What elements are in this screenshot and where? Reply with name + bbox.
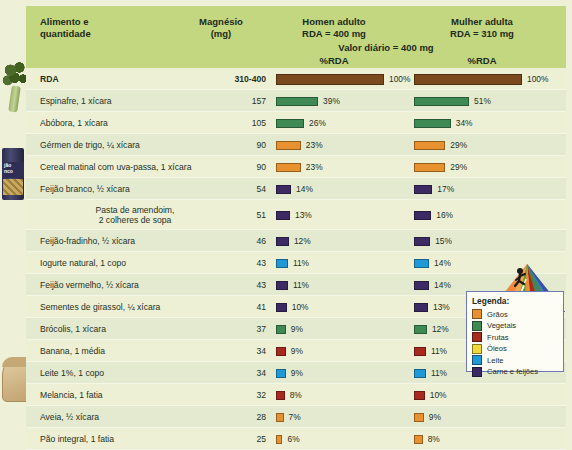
percent-label: 7% <box>289 412 301 422</box>
percent-label: 13% <box>295 210 312 220</box>
percent-bar <box>276 369 286 378</box>
percent-bar <box>276 119 304 128</box>
cell-bar-men: 12% <box>276 230 411 252</box>
cell-magnesium-mg: 34 <box>176 362 266 384</box>
header-pct-rda-women: %RDA <box>412 55 552 67</box>
cell-bar-men: 11% <box>276 274 411 296</box>
can-label: jão nco <box>2 162 24 178</box>
cell-magnesium-mg: 25 <box>176 428 266 450</box>
percent-bar <box>414 369 426 378</box>
percent-bar <box>414 185 432 194</box>
cell-bar-men: 7% <box>276 406 411 428</box>
percent-label: 100% <box>527 74 548 84</box>
legend-label: Frutas <box>487 333 509 342</box>
percent-bar <box>414 325 427 334</box>
decorative-gutter: jão nco <box>0 0 26 427</box>
percent-bar <box>276 259 288 268</box>
cell-bar-men: 9% <box>276 362 411 384</box>
percent-bar <box>276 211 290 220</box>
cell-bar-women: 8% <box>414 428 564 450</box>
legend-items: GrãosVegetaisFrutasÓleosLeiteCarne e fei… <box>472 309 558 377</box>
legend-item: Grãos <box>472 309 558 319</box>
table-body: RDA310-400100%100%Espinafre, 1 xícara157… <box>26 68 566 450</box>
cell-magnesium-mg: 310-400 <box>176 68 266 90</box>
percent-bar <box>276 413 284 422</box>
percent-bar <box>414 141 445 150</box>
cell-bar-women: 16% <box>414 200 564 230</box>
table-row: Abóbora, 1 xícara10526%34% <box>26 112 566 134</box>
percent-bar <box>414 347 426 356</box>
percent-label: 100% <box>389 74 410 84</box>
cell-bar-men: 6% <box>276 428 411 450</box>
percent-label: 26% <box>309 118 326 128</box>
legend-swatch <box>472 344 482 354</box>
header-man-line2: RDA = 400 mg <box>274 28 394 40</box>
legend-item: Vegetais <box>472 321 558 331</box>
cell-magnesium-mg: 43 <box>176 274 266 296</box>
percent-label: 11% <box>293 280 309 290</box>
table-row: Gérmen de trigo, ¼ xícara9023%29% <box>26 134 566 156</box>
percent-bar <box>414 74 522 85</box>
header-mg-line1: Magnésio <box>176 16 266 28</box>
legend-swatch <box>472 321 482 331</box>
legend-item: Leite <box>472 355 558 365</box>
cell-bar-men: 9% <box>276 340 411 362</box>
magnesium-table: Alimento e quantidade Magnésio (mg) Home… <box>26 6 566 450</box>
percent-label: 51% <box>474 96 491 106</box>
table-row: Pão integral, 1 fatia256%8% <box>26 428 566 450</box>
table-row: Aveia, ½ xícara287%9% <box>26 406 566 428</box>
cell-magnesium-mg: 34 <box>176 340 266 362</box>
legend-item: Carne e feijões <box>472 367 558 377</box>
percent-label: 14% <box>434 280 451 290</box>
header-man-column: Homen adulto RDA = 400 mg <box>274 16 394 39</box>
legend-label: Carne e feijões <box>487 367 538 376</box>
percent-label: 13% <box>433 302 450 312</box>
percent-bar <box>414 303 428 312</box>
cell-bar-women: 34% <box>414 112 564 134</box>
percent-label: 16% <box>436 210 453 220</box>
percent-bar <box>414 413 424 422</box>
header-food-line1: Alimento e <box>40 16 170 28</box>
cell-bar-women: 17% <box>414 178 564 200</box>
table-row: Feijão branco, ½ xícara5414%17% <box>26 178 566 200</box>
percent-bar <box>276 347 286 356</box>
cell-bar-men: 23% <box>276 156 411 178</box>
percent-label: 23% <box>306 140 323 150</box>
percent-label: 23% <box>306 162 323 172</box>
legend-swatch <box>472 367 482 377</box>
percent-label: 10% <box>430 390 447 400</box>
table-row: Espinafre, 1 xícara15739%51% <box>26 90 566 112</box>
cell-bar-women: 9% <box>414 406 564 428</box>
cell-magnesium-mg: 51 <box>176 200 266 230</box>
legend-swatch <box>472 332 482 342</box>
percent-bar <box>276 141 301 150</box>
cell-bar-women: 15% <box>414 230 564 252</box>
percent-bar <box>414 435 423 444</box>
percent-label: 9% <box>429 412 441 422</box>
legend-label: Óleos <box>487 344 507 353</box>
cell-bar-men: 14% <box>276 178 411 200</box>
table-row: Cereal matinal com uva-passa, 1 xícara90… <box>26 156 566 178</box>
percent-label: 9% <box>291 324 303 334</box>
percent-label: 9% <box>291 346 303 356</box>
bean-can-photo: jão nco <box>0 148 26 206</box>
legend-box: Legenda: GrãosVegetaisFrutasÓleosLeiteCa… <box>466 291 564 372</box>
cell-bar-women: 29% <box>414 134 564 156</box>
cell-magnesium-mg: 37 <box>176 318 266 340</box>
cell-magnesium-mg: 90 <box>176 156 266 178</box>
cell-bar-men: 10% <box>276 296 411 318</box>
cell-bar-men: 100% <box>276 68 411 90</box>
percent-bar <box>276 74 384 85</box>
percent-label: 12% <box>294 236 311 246</box>
header-mg-line2: (mg) <box>176 28 266 40</box>
percent-bar <box>414 259 429 268</box>
legend-item: Frutas <box>472 332 558 342</box>
percent-label: 34% <box>456 118 473 128</box>
cell-bar-women: 100% <box>414 68 564 90</box>
percent-bar <box>414 163 445 172</box>
cell-bar-men: 9% <box>276 318 411 340</box>
percent-bar <box>414 119 451 128</box>
legend-label: Vegetais <box>487 321 516 330</box>
cell-magnesium-mg: 32 <box>176 384 266 406</box>
percent-bar <box>276 325 286 334</box>
